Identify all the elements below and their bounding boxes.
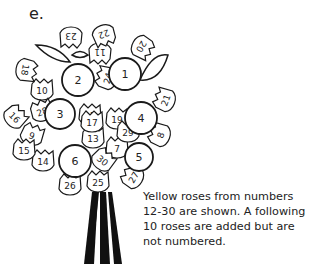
small-rose-17: 17 (81, 111, 103, 132)
small-rose-18: 18 (14, 57, 39, 82)
rose-number: 7 (114, 144, 120, 154)
rose-number: 1 (122, 68, 129, 81)
rose-number: 15 (18, 146, 29, 156)
large-rose-4: 4 (125, 102, 157, 134)
large-rose-2: 2 (62, 64, 94, 96)
rose-number: 17 (86, 118, 97, 128)
small-rose-20: 20 (128, 32, 157, 62)
rose-number: 3 (57, 108, 64, 121)
large-rose-3: 3 (45, 99, 75, 129)
rose-number: 25 (92, 178, 103, 188)
rose-number: 10 (36, 86, 48, 96)
small-rose-11: 11 (89, 43, 111, 64)
large-rose-1: 1 (109, 58, 141, 90)
rose-number: 18 (19, 63, 31, 76)
rose-number: 14 (37, 157, 49, 167)
rose-number: 5 (136, 151, 143, 164)
rose-number: 6 (72, 155, 79, 168)
large-rose-5: 5 (125, 143, 153, 171)
rose-number: 11 (94, 47, 105, 57)
small-rose-23: 23 (60, 27, 82, 48)
rose-number: 2 (75, 74, 82, 87)
small-rose-15: 15 (13, 139, 35, 160)
rose-number: 4 (138, 112, 145, 125)
large-rose-6: 6 (59, 145, 91, 177)
rose-number: 26 (64, 181, 76, 191)
stems (84, 192, 122, 264)
rose-number: 23 (65, 31, 76, 41)
small-rose-25: 25 (87, 171, 109, 192)
caption: Yellow roses from numbers 12-30 are show… (143, 189, 315, 249)
rose-number: 13 (87, 134, 98, 144)
